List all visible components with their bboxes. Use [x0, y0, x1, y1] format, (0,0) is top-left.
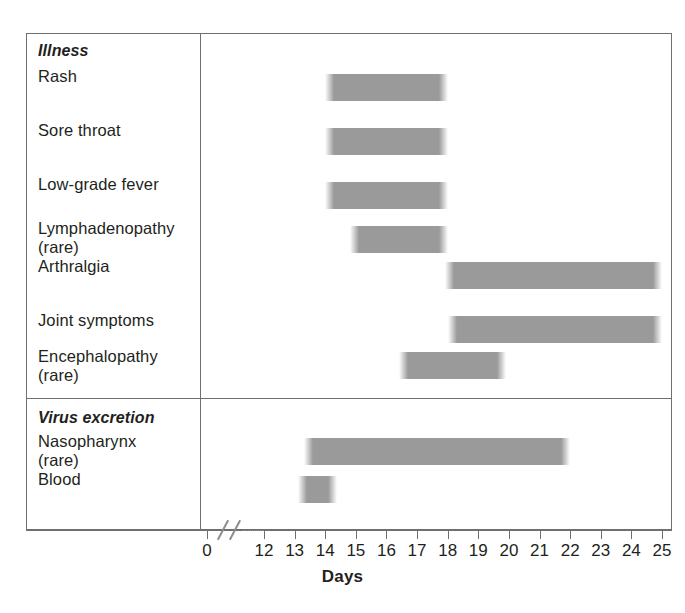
- x-axis-tick-25: [662, 531, 663, 539]
- x-axis-tick-label-23: 23: [591, 541, 610, 561]
- row-label-encephalopathy: Encephalopathy (rare): [38, 347, 158, 385]
- x-axis-tick-22: [570, 531, 571, 539]
- row-label-encephalopathy-sub: (rare): [38, 366, 158, 385]
- x-axis-tick-16: [386, 531, 387, 539]
- x-axis-tick-14: [325, 531, 326, 539]
- bar-blood: [298, 476, 338, 503]
- x-axis-tick-label-19: 19: [469, 541, 488, 561]
- x-axis-tick-label-0: 0: [202, 541, 211, 561]
- row-label-blood: Blood: [38, 470, 81, 489]
- group-label-illness: Illness: [38, 41, 89, 60]
- x-axis-tick-12: [264, 531, 265, 539]
- row-label-joint-symptoms: Joint symptoms: [38, 311, 154, 330]
- x-axis-tick-label-16: 16: [377, 541, 396, 561]
- x-axis-tick-15: [356, 531, 357, 539]
- x-axis-tick-label-20: 20: [499, 541, 518, 561]
- x-axis-title: Days: [0, 567, 685, 587]
- row-label-lymphadenopathy: Lymphadenopathy (rare): [38, 219, 175, 257]
- x-axis-tick-label-18: 18: [438, 541, 457, 561]
- group-label-virus-excretion: Virus excretion: [38, 408, 155, 427]
- x-axis-tick-label-25: 25: [653, 541, 672, 561]
- bar-arthralgia: [445, 262, 662, 289]
- row-label-lymphadenopathy-main: Lymphadenopathy: [38, 219, 175, 237]
- axis-break-dots: [243, 530, 263, 532]
- bar-joint-symptoms: [448, 316, 662, 343]
- x-axis-tick-label-13: 13: [285, 541, 304, 561]
- x-axis-tick-label-15: 15: [346, 541, 365, 561]
- row-label-nasopharynx: Nasopharynx (rare): [38, 432, 136, 470]
- bar-encephalopathy: [399, 352, 506, 379]
- x-axis-line: [26, 530, 672, 531]
- x-axis-tick-19: [478, 531, 479, 539]
- x-axis-tick-label-24: 24: [622, 541, 641, 561]
- bar-rash: [325, 74, 447, 101]
- row-label-nasopharynx-sub: (rare): [38, 451, 136, 470]
- x-axis-tick-18: [448, 531, 449, 539]
- x-axis-tick-21: [540, 531, 541, 539]
- row-label-low-grade-fever: Low-grade fever: [38, 175, 159, 194]
- row-label-column: Illness Rash Sore throat Low-grade fever…: [26, 33, 200, 530]
- bar-low-grade-fever: [325, 182, 447, 209]
- bar-lymphadenopathy: [350, 226, 448, 253]
- row-label-arthralgia: Arthralgia: [38, 257, 110, 276]
- x-axis-tick-17: [417, 531, 418, 539]
- bar-sore-throat: [325, 128, 447, 155]
- row-label-nasopharynx-main: Nasopharynx: [38, 432, 136, 450]
- x-axis-tick-13: [295, 531, 296, 539]
- row-label-lymphadenopathy-sub: (rare): [38, 238, 175, 257]
- row-label-sore-throat: Sore throat: [38, 121, 121, 140]
- row-label-encephalopathy-main: Encephalopathy: [38, 347, 158, 365]
- x-axis-tick-label-21: 21: [530, 541, 549, 561]
- x-axis-tick-label-14: 14: [316, 541, 335, 561]
- row-label-rash: Rash: [38, 67, 77, 86]
- x-axis-tick-label-17: 17: [408, 541, 427, 561]
- x-axis-tick-label-22: 22: [561, 541, 580, 561]
- bar-nasopharynx: [304, 438, 570, 465]
- plot-area: [201, 34, 671, 529]
- x-axis-tick-23: [601, 531, 602, 539]
- x-axis-tick-24: [631, 531, 632, 539]
- x-axis-tick-label-12: 12: [255, 541, 274, 561]
- timeline-chart: Illness Rash Sore throat Low-grade fever…: [0, 0, 685, 613]
- x-axis-tick-0: [207, 531, 208, 539]
- x-axis-tick-20: [509, 531, 510, 539]
